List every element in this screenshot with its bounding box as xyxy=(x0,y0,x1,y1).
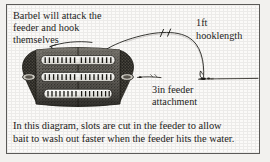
slot-band xyxy=(41,56,115,65)
hook-icon xyxy=(200,71,203,78)
feeder-attachment-line xyxy=(138,74,162,78)
hooklength-annotation: 1ft hooklength xyxy=(196,17,266,42)
figure-caption: In this diagram, slots are cut in the fe… xyxy=(13,119,253,146)
slot-band xyxy=(44,89,112,98)
feeder-attachment-annotation: 3in feeder attachment xyxy=(152,84,238,109)
slot-band xyxy=(41,72,115,81)
barbel-annotation: Barbel will attack the feeder and hook t… xyxy=(13,10,143,47)
feeder-body xyxy=(22,44,133,110)
figure-plate: Barbel will attack the feeder and hook t… xyxy=(0,0,270,162)
